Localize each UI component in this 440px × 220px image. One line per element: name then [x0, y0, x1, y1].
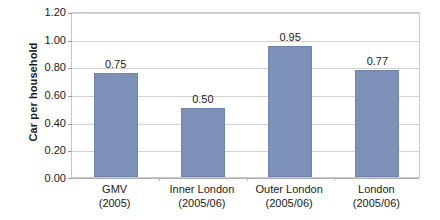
- category-period: (2005/06): [333, 196, 420, 210]
- category-name: London: [358, 183, 395, 195]
- axis-baseline: [72, 178, 419, 179]
- y-axis-tick-label: 0.60: [45, 90, 66, 101]
- bar: [94, 73, 138, 177]
- category-name: Outer London: [255, 183, 322, 195]
- y-axis-tick-label: 0.00: [45, 173, 66, 184]
- bars: 0.750.500.950.77: [72, 13, 419, 177]
- bar-value-label: 0.77: [367, 55, 388, 67]
- bar-group: 0.95: [247, 13, 334, 177]
- x-axis-tick-mark: [247, 177, 248, 181]
- bar-value-label: 0.75: [105, 58, 126, 70]
- category-name: Inner London: [169, 183, 234, 195]
- y-axis-tick-label: 1.00: [45, 34, 66, 45]
- bar-value-label: 0.95: [279, 31, 300, 43]
- y-axis-tick-label: 0.40: [45, 117, 66, 128]
- y-axis-tick-label: 0.20: [45, 145, 66, 156]
- bar-group: 0.77: [334, 13, 421, 177]
- bar-value-label: 0.50: [192, 93, 213, 105]
- category-period: (2005): [71, 196, 158, 210]
- category-period: (2005/06): [246, 196, 333, 210]
- category-name: GMV: [102, 183, 127, 195]
- bar: [355, 70, 399, 177]
- x-axis-category-label: Outer London(2005/06): [246, 182, 333, 210]
- y-axis-tick-mark: [68, 178, 72, 179]
- y-axis-tick-label: 1.20: [45, 7, 66, 18]
- bar-group: 0.75: [72, 13, 159, 177]
- x-axis-tick-mark: [159, 177, 160, 181]
- y-axis-tick-labels: 0.000.200.400.600.801.001.20: [30, 12, 66, 178]
- bar: [268, 46, 312, 177]
- x-axis-tick-mark: [334, 177, 335, 181]
- y-axis-tick-label: 0.80: [45, 62, 66, 73]
- plot-area: 0.750.500.950.77: [71, 12, 420, 178]
- x-axis-category-labels: GMV(2005)Inner London(2005/06)Outer Lond…: [71, 182, 420, 220]
- x-axis-category-label: London(2005/06): [333, 182, 420, 210]
- bar-chart: Car per household 0.000.200.400.600.801.…: [0, 0, 440, 220]
- x-axis-category-label: GMV(2005): [71, 182, 158, 210]
- x-axis-category-label: Inner London(2005/06): [158, 182, 245, 210]
- category-period: (2005/06): [158, 196, 245, 210]
- bar-group: 0.50: [159, 13, 246, 177]
- bar: [181, 108, 225, 177]
